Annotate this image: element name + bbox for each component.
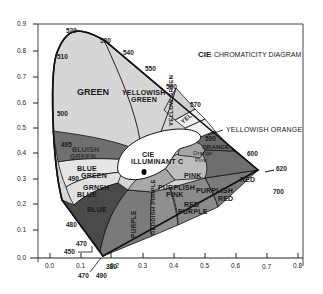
wl-600: 600: [247, 150, 258, 157]
label-purple: PURPLE: [130, 210, 137, 238]
title-prefix: CIE: [198, 50, 212, 59]
wl-470-lower: 470: [78, 272, 89, 279]
wl-700: 700: [273, 188, 284, 195]
y-tick-label: 0.5: [17, 124, 26, 131]
cie-chromaticity-diagram: 0.9 0.8 0.7 0.6 0.5 0.4 0.3 0.2 0.1 0.0 …: [0, 0, 323, 294]
label-yellowish-orange: YELLOWISH ORANGE: [226, 126, 302, 133]
label-yellowish-green: YELLOWISH: [122, 89, 165, 96]
label-reddish-purple: REDDISH PURPLE: [150, 179, 156, 235]
wl-540: 540: [123, 49, 134, 56]
x-tick-label: 0.8: [293, 262, 302, 269]
x-axis: 0.0 0.1 0.2 0.3 0.4 0.5 0.6 0.7 0.8: [45, 253, 302, 270]
wl-480: 480: [66, 221, 77, 228]
title-text: CHROMATICITY DIAGRAM: [214, 51, 301, 58]
label-yellowish-green-2: GREEN: [131, 96, 157, 103]
label-yellow-green: YELLOW GREEN: [168, 75, 174, 126]
label-red: RED: [240, 176, 255, 183]
y-axis: 0.9 0.8 0.7 0.6 0.5 0.4 0.3 0.2 0.1 0.0: [17, 20, 38, 261]
wl-490-lower: 490: [96, 272, 107, 279]
x-tick-label: 0.3: [138, 262, 147, 269]
wl-510: 510: [57, 53, 68, 60]
y-tick-label: 0.9: [17, 20, 26, 27]
y-tick-label: 0.4: [17, 149, 26, 156]
y-tick-label: 0.8: [17, 47, 26, 54]
illuminant-c-point: [142, 169, 147, 175]
label-purplish-red-2: RED: [218, 195, 233, 202]
wl-450: 450: [64, 248, 75, 255]
label-orange-pink-2: Pink: [195, 157, 207, 163]
label-greenish-blue: GRNSH: [83, 184, 109, 191]
label-bluish-green-2: GREEN: [70, 153, 96, 160]
y-tick-label: 0.1: [17, 226, 26, 233]
wl-570: 570: [190, 101, 201, 108]
y-tick-label: 0.3: [17, 175, 26, 182]
label-illuminant-c: ILLUMINANT C: [131, 158, 183, 165]
label-illuminant-cie: CIE: [142, 151, 154, 158]
label-pink: PINK: [184, 172, 202, 179]
y-tick-label: 0.7: [17, 73, 26, 80]
wl-500: 500: [57, 110, 68, 117]
label-blue-green: BLUE: [77, 165, 97, 172]
label-purplish-pink-2: PINK: [166, 191, 184, 198]
label-green: GREEN: [77, 87, 109, 97]
x-tick-label: 0.1: [76, 262, 85, 269]
label-purplish-red: PURPLISH: [196, 187, 233, 194]
label-red-purple-2: PURPLE: [178, 208, 208, 215]
x-tick-label: 0.4: [169, 262, 178, 269]
x-tick-label: 0.6: [231, 262, 240, 269]
y-tick-label: 0.2: [17, 200, 26, 207]
y-tick-label: 0.0: [17, 254, 26, 261]
label-red-purple: RED: [184, 201, 199, 208]
wl-520: 520: [66, 27, 77, 34]
label-orange-pink: Orange: [193, 150, 213, 156]
wl-495: 495: [61, 141, 72, 148]
wl-590: 590: [205, 135, 216, 142]
label-blue: BLUE: [87, 206, 107, 213]
x-tick-label: 0.0: [45, 262, 54, 269]
wl-620: 620: [276, 165, 287, 172]
wl-380: 380: [106, 263, 117, 270]
wl-470: 470: [76, 240, 87, 247]
wl-490: 490: [68, 175, 79, 182]
label-purplish-pink: PURPLISH: [158, 184, 195, 191]
wl-530: 530: [100, 37, 111, 44]
label-bluish-green: BLUISH: [72, 146, 99, 153]
x-tick-label: 0.7: [262, 263, 271, 270]
label-blue-green-2: GREEN: [81, 172, 107, 179]
label-greenish-blue-2: BLUE: [77, 191, 97, 198]
y-tick-label: 0.6: [17, 99, 26, 106]
x-tick-label: 0.5: [200, 262, 209, 269]
wl-550: 550: [145, 65, 156, 72]
